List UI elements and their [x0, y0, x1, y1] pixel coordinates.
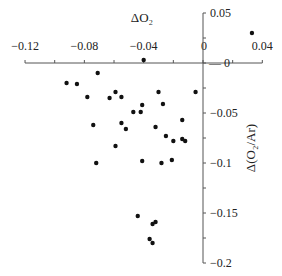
- data-point: [113, 90, 117, 94]
- data-point: [141, 58, 145, 62]
- data-point: [193, 90, 197, 94]
- data-point: [147, 237, 151, 241]
- data-point: [94, 161, 98, 165]
- y-axis: 0.05— 0−0.05−0.1−0.15−0.2: [203, 6, 238, 270]
- data-point: [136, 214, 140, 218]
- data-point: [119, 121, 123, 125]
- data-point: [64, 81, 68, 85]
- scatter-chart: −0.12−0.08−0.0400.04 0.05— 0−0.05−0.1−0.…: [0, 0, 282, 276]
- x-tick-label: 0.04: [252, 39, 273, 53]
- x-tick-label: 0: [201, 39, 207, 53]
- data-point: [250, 31, 254, 35]
- data-point: [85, 95, 89, 99]
- data-point: [159, 161, 163, 165]
- y-tick-label: −0.1: [210, 156, 232, 170]
- x-axis-title: ΔO₂: [131, 10, 153, 25]
- data-point: [96, 71, 100, 75]
- data-point: [161, 102, 165, 106]
- data-point: [107, 96, 111, 100]
- y-tick-label: — 0: [208, 56, 230, 70]
- data-point: [91, 123, 95, 127]
- data-point: [139, 110, 143, 114]
- data-point: [153, 125, 157, 129]
- data-point: [119, 95, 123, 99]
- data-point: [170, 158, 174, 162]
- data-point: [183, 139, 187, 143]
- data-point: [113, 144, 117, 148]
- data-point: [150, 241, 154, 245]
- y-tick-label: −0.15: [210, 206, 238, 220]
- data-point: [180, 118, 184, 122]
- data-point: [140, 159, 144, 163]
- x-tick-label: −0.08: [70, 39, 98, 53]
- x-tick-label: −0.12: [11, 39, 39, 53]
- data-point: [156, 90, 160, 94]
- data-point: [164, 134, 168, 138]
- data-point: [153, 220, 157, 224]
- y-tick-label: 0.05: [210, 6, 231, 20]
- y-tick-label: −0.2: [210, 256, 232, 270]
- data-point: [171, 139, 175, 143]
- y-tick-label: −0.05: [210, 106, 238, 120]
- data-point: [75, 82, 79, 86]
- data-point: [140, 103, 144, 107]
- data-point: [131, 110, 135, 114]
- x-tick-label: −0.04: [130, 39, 158, 53]
- y-axis-title: Δ(O₂/Ar): [243, 124, 258, 172]
- data-point: [124, 127, 128, 131]
